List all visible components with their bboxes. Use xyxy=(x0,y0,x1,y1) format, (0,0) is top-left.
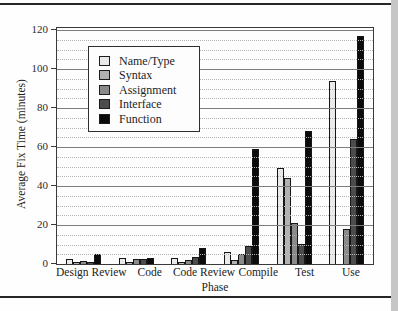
legend-label-interface: Interface xyxy=(119,98,162,110)
legend-item-assignment: Assignment xyxy=(99,84,199,96)
gridline-major-40 xyxy=(57,186,373,187)
bar-syntax-test xyxy=(284,178,291,264)
gridline-minor-35 xyxy=(57,196,373,197)
gridline-minor-115 xyxy=(57,40,373,41)
legend-label-assignment: Assignment xyxy=(119,84,176,96)
gridline-major-60 xyxy=(57,147,373,148)
y-tick-20 xyxy=(51,224,56,225)
y-tick-label-20: 20 xyxy=(0,218,48,230)
bar-assignment-code xyxy=(133,259,140,264)
y-tick-label-120: 120 xyxy=(0,23,48,35)
y-tick-40 xyxy=(51,185,56,186)
gridline-minor-10 xyxy=(57,245,373,246)
gridline-major-20 xyxy=(57,225,373,226)
bar-syntax-compile xyxy=(231,260,238,264)
bar-group-test xyxy=(268,28,321,264)
legend-swatch-interface xyxy=(99,99,110,109)
y-tick-label-80: 80 xyxy=(0,101,48,113)
legend-item-syntax: Syntax xyxy=(99,69,199,81)
y-tick-label-60: 60 xyxy=(0,140,48,152)
bar-group-use xyxy=(320,28,373,264)
y-tick-80 xyxy=(51,107,56,108)
legend-label-function: Function xyxy=(119,113,162,125)
category-label-test: Test xyxy=(281,266,327,278)
y-tick-label-40: 40 xyxy=(0,179,48,191)
gridline-minor-30 xyxy=(57,206,373,207)
gridline-minor-15 xyxy=(57,235,373,236)
bar-interface-design-review xyxy=(87,262,94,264)
y-tick-100 xyxy=(51,68,56,69)
gridline-minor-45 xyxy=(57,176,373,177)
legend-swatch-assignment xyxy=(99,85,110,95)
bar-function-code-review xyxy=(199,248,206,264)
legend: Name/TypeSyntaxAssignmentInterfaceFuncti… xyxy=(88,46,200,132)
page-edge-shading xyxy=(391,0,398,311)
x-category-labels: Design ReviewCodeCode ReviewCompileTestU… xyxy=(56,266,374,278)
legend-item-interface: Interface xyxy=(99,98,199,110)
legend-label-name-type: Name/Type xyxy=(119,55,175,67)
category-label-design-review: Design Review xyxy=(56,266,127,278)
y-tick-60 xyxy=(51,146,56,147)
bar-syntax-code-review xyxy=(178,262,185,264)
gridline-minor-5 xyxy=(57,254,373,255)
legend-swatch-syntax xyxy=(99,70,110,80)
bar-function-design-review xyxy=(94,254,101,264)
bar-name-type-code-review xyxy=(171,258,178,264)
gridline-major-120 xyxy=(57,30,373,31)
bar-function-code xyxy=(147,258,154,264)
top-rule xyxy=(0,3,391,5)
legend-label-syntax: Syntax xyxy=(119,69,152,81)
gridline-minor-50 xyxy=(57,167,373,168)
legend-swatch-name-type xyxy=(99,56,110,66)
y-tick-label-0: 0 xyxy=(0,257,48,269)
category-label-code-review: Code Review xyxy=(173,266,235,278)
bar-group-compile xyxy=(215,28,268,264)
y-tick-0 xyxy=(51,263,56,264)
y-tick-label-100: 100 xyxy=(0,62,48,74)
category-label-compile: Compile xyxy=(235,266,281,278)
bar-assignment-design-review xyxy=(80,261,87,264)
gridline-minor-65 xyxy=(57,137,373,138)
figure-scan: Average Fix Time (minutes) Name/TypeSynt… xyxy=(0,0,398,311)
bar-interface-code xyxy=(140,259,147,264)
legend-item-function: Function xyxy=(99,113,199,125)
gridline-minor-25 xyxy=(57,215,373,216)
bar-syntax-design-review xyxy=(73,262,80,264)
bar-assignment-compile xyxy=(238,254,245,264)
x-axis-title: Phase xyxy=(56,281,374,293)
bar-assignment-test xyxy=(291,223,298,264)
category-label-code: Code xyxy=(127,266,173,278)
category-label-use: Use xyxy=(328,266,374,278)
legend-swatch-function xyxy=(99,114,110,124)
bar-function-use xyxy=(357,36,364,264)
y-tick-120 xyxy=(51,29,56,30)
bar-assignment-code-review xyxy=(185,260,192,264)
bar-name-type-design-review xyxy=(66,259,73,264)
bottom-rule xyxy=(0,296,391,298)
bar-name-type-code xyxy=(119,258,126,264)
gridline-minor-55 xyxy=(57,157,373,158)
bar-syntax-code xyxy=(126,262,133,264)
legend-item-name-type: Name/Type xyxy=(99,55,199,67)
bar-interface-code-review xyxy=(192,257,199,264)
